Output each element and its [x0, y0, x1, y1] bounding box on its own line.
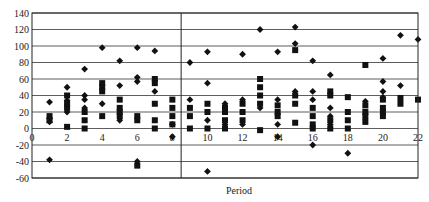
x-tick-label: 16 — [308, 132, 318, 143]
diamond-marker — [81, 96, 88, 103]
square-marker — [99, 113, 105, 119]
diamond-marker — [187, 96, 194, 103]
square-marker — [327, 117, 333, 123]
diamond-marker — [134, 44, 141, 51]
square-marker — [327, 93, 333, 99]
square-marker — [345, 117, 351, 123]
diamond-marker — [46, 156, 53, 163]
square-marker — [134, 163, 140, 169]
y-tick-label: 0 — [24, 123, 29, 134]
diamond-marker — [309, 96, 316, 103]
square-marker — [64, 124, 70, 130]
diamond-marker — [204, 80, 211, 87]
square-marker — [134, 117, 140, 123]
diamond-marker — [344, 150, 351, 157]
square-marker — [222, 109, 228, 115]
square-marker — [327, 126, 333, 132]
x-tick-label: 12 — [238, 132, 248, 143]
y-axis-tick-labels: -60-40-20020406080100120140 — [14, 8, 29, 184]
square-marker — [397, 101, 403, 107]
diamond-marker — [239, 51, 246, 58]
diamond-marker — [151, 88, 158, 95]
square-marker — [169, 113, 175, 119]
square-marker — [99, 88, 105, 94]
diamond-marker — [397, 82, 404, 89]
diamond-marker — [309, 142, 316, 149]
square-marker — [187, 105, 193, 111]
y-tick-label: 140 — [14, 8, 29, 19]
square-marker — [82, 109, 88, 115]
square-marker — [275, 102, 281, 108]
diamond-marker — [274, 48, 281, 55]
square-marker — [292, 101, 298, 107]
square-marker — [187, 113, 193, 119]
diamond-marker — [99, 44, 106, 51]
x-tick-label: 20 — [378, 132, 388, 143]
square-marker — [204, 101, 210, 107]
diamond-marker — [309, 57, 316, 64]
square-marker — [310, 113, 316, 119]
square-marker — [169, 105, 175, 111]
square-marker — [64, 93, 70, 99]
diamond-marker — [397, 32, 404, 39]
square-marker — [292, 93, 298, 99]
y-tick-label: 120 — [14, 24, 29, 35]
square-marker — [257, 101, 263, 107]
diamond-marker — [151, 48, 158, 55]
square-marker — [240, 117, 246, 123]
square-marker — [169, 97, 175, 103]
diamond-marker — [46, 99, 53, 106]
square-marker — [362, 102, 368, 108]
scatter-chart: -60-40-20020406080100120140 024681012141… — [0, 0, 429, 202]
y-tick-label: -40 — [16, 156, 29, 167]
square-marker — [222, 117, 228, 123]
square-marker — [204, 109, 210, 115]
square-marker — [345, 94, 351, 100]
square-marker — [187, 126, 193, 132]
y-tick-label: 20 — [19, 107, 29, 118]
diamond-marker — [204, 168, 211, 175]
square-marker — [362, 62, 368, 68]
square-marker — [117, 113, 123, 119]
square-marker — [152, 101, 158, 107]
square-marker — [345, 126, 351, 132]
square-marker — [257, 127, 263, 133]
diamond-marker — [204, 48, 211, 55]
square-marker — [310, 105, 316, 111]
y-tick-label: 100 — [14, 41, 29, 52]
square-marker — [345, 109, 351, 115]
y-tick-label: 60 — [19, 74, 29, 85]
square-marker — [222, 126, 228, 132]
diamond-marker — [64, 84, 71, 91]
x-tick-label: 2 — [65, 132, 70, 143]
x-tick-label: 4 — [100, 132, 105, 143]
diamond-marker — [380, 55, 387, 62]
square-marker — [82, 117, 88, 123]
square-marker — [204, 126, 210, 132]
square-marker — [257, 93, 263, 99]
diamond-marker — [204, 117, 211, 124]
diamond-marker — [257, 26, 264, 33]
y-tick-label: -60 — [16, 173, 29, 184]
square-marker — [362, 119, 368, 125]
square-marker — [169, 121, 175, 127]
square-marker — [275, 113, 281, 119]
y-tick-label: 40 — [19, 90, 29, 101]
square-marker — [397, 95, 403, 101]
square-marker — [240, 101, 246, 107]
chart-canvas: -60-40-20020406080100120140 024681012141… — [0, 0, 429, 202]
diamond-marker — [116, 82, 123, 89]
square-marker — [292, 120, 298, 126]
diamond-marker — [187, 59, 194, 66]
square-marker — [152, 117, 158, 123]
square-marker — [117, 97, 123, 103]
square-marker — [362, 113, 368, 119]
square-marker — [380, 113, 386, 119]
diamond-marker — [327, 104, 334, 111]
x-axis-tick-labels: 0246810121416182022 — [30, 132, 424, 143]
diamond-marker — [309, 88, 316, 95]
square-marker — [380, 97, 386, 103]
diamond-marker — [99, 100, 106, 107]
x-axis-title: Period — [226, 185, 252, 196]
diamond-marker — [274, 96, 281, 103]
